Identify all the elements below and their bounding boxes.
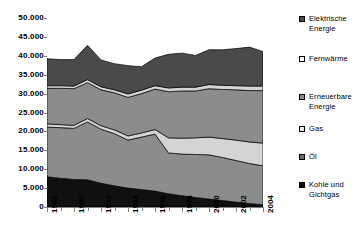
y-tick-label: 35.000 [3,71,44,79]
x-tick-mark [169,208,170,211]
y-tick-label: 0 [3,203,44,211]
x-tick-label: 1988 [51,195,59,213]
x-tick-label: 2004 [267,195,275,213]
y-tick-label: 25.000 [3,109,44,117]
x-tick-label: 1998 [186,195,194,213]
stacked-area-chart: 50.00045.00040.00035.00030.00025.00020.0… [0,0,363,243]
y-tick-label: 30.000 [3,90,44,98]
y-tick-label: 50.000 [3,14,44,22]
x-tick-label: 2000 [213,195,221,213]
x-tick-mark [101,208,102,212]
legend-label: Fernwärme [309,54,348,64]
y-tick-label: 10.000 [3,165,44,173]
x-tick-label: 1992 [105,195,113,213]
x-tick-mark [128,208,129,212]
x-tick-mark [209,208,210,212]
legend-swatch-icon [299,154,305,160]
x-tick-label: 1994 [132,195,140,213]
x-tick-mark [196,208,197,211]
legend-label: Erneuerbare Energie [309,92,352,111]
legend-label: Gas [309,124,323,134]
legend-swatch-icon [299,126,305,132]
x-tick-mark [74,208,75,212]
plot-area [47,18,263,207]
legend-erneuerbare-energie: Erneuerbare Energie [299,92,352,111]
x-tick-mark [223,208,224,211]
x-tick-mark [61,208,62,211]
x-tick-mark [263,208,264,212]
area-series-group [47,18,263,207]
x-tick-mark [155,208,156,212]
legend-label: Kohle und Gichtgas [309,180,344,199]
y-tick-label: 45.000 [3,33,44,41]
x-tick-mark [142,208,143,211]
legend-swatch-icon [299,16,305,22]
chart-legend: Elektrische EnergieFernwärmeErneuerbare … [299,0,363,243]
legend-swatch-icon [299,56,305,62]
legend-label: Öl [309,152,317,162]
legend-swatch-icon [299,94,305,100]
legend-oel: Öl [299,152,317,162]
y-tick-label: 15.000 [3,146,44,154]
y-axis-labels: 50.00045.00040.00035.00030.00025.00020.0… [0,0,44,243]
legend-kohle-und-gichtgas: Kohle und Gichtgas [299,180,344,199]
x-tick-mark [182,208,183,212]
x-tick-label: 1996 [159,195,167,213]
legend-elektrische-energie: Elektrische Energie [299,14,347,33]
legend-swatch-icon [299,182,305,188]
x-tick-mark [47,208,48,212]
x-tick-mark [236,208,237,212]
x-tick-mark [88,208,89,211]
x-tick-mark [115,208,116,211]
legend-fernwaerme: Fernwärme [299,54,348,64]
x-tick-mark [250,208,251,211]
y-tick-label: 5.000 [3,184,44,192]
x-tick-label: 1990 [78,195,86,213]
y-tick-label: 20.000 [3,127,44,135]
y-tick-label: 40.000 [3,52,44,60]
legend-gas: Gas [299,124,323,134]
x-tick-label: 2002 [240,195,248,213]
legend-label: Elektrische Energie [309,14,347,33]
